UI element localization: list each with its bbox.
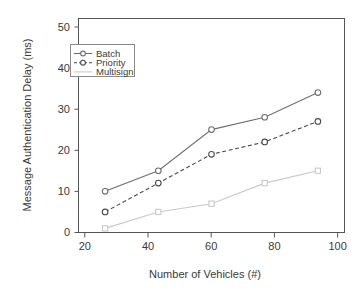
- data-point-multisign-80: [262, 181, 267, 186]
- data-point-batch-20: [102, 189, 108, 195]
- y-tick-label-40: 40: [58, 62, 70, 74]
- data-point-priority-40: [156, 180, 162, 186]
- series-multisign: [103, 168, 321, 231]
- x-axis-ticks: [85, 233, 338, 238]
- x-tick-label-60: 60: [205, 240, 217, 252]
- y-axis-title: Message Authentication Delay (ms): [21, 38, 33, 211]
- x-axis-tick-labels: 20 40 60 80 100: [79, 240, 347, 252]
- data-point-priority-60: [209, 152, 215, 158]
- data-point-multisign-40: [156, 209, 161, 214]
- data-point-priority-80: [262, 139, 268, 145]
- y-tick-label-0: 0: [64, 226, 70, 238]
- chart-legend: BatchPriorityMultisign: [71, 45, 135, 78]
- data-point-batch-100: [315, 90, 321, 96]
- data-series-layer: [102, 90, 320, 231]
- y-tick-label-20: 20: [58, 144, 70, 156]
- data-point-multisign-60: [209, 201, 214, 206]
- y-tick-label-10: 10: [58, 185, 70, 197]
- y-tick-label-50: 50: [58, 21, 70, 33]
- data-point-multisign-100: [315, 168, 320, 173]
- series-line-batch: [105, 93, 318, 192]
- series-line-priority: [105, 121, 318, 212]
- data-point-multisign-20: [103, 226, 108, 231]
- data-point-batch-60: [209, 127, 215, 133]
- series-priority: [102, 119, 320, 215]
- x-tick-label-40: 40: [142, 240, 154, 252]
- legend-label-multisign: Multisign: [96, 66, 134, 77]
- data-point-priority-100: [315, 119, 321, 125]
- x-tick-label-100: 100: [328, 240, 346, 252]
- legend-marker-batch: [81, 51, 86, 56]
- x-tick-label-80: 80: [268, 240, 280, 252]
- data-point-batch-80: [262, 114, 268, 120]
- y-axis-tick-labels: 0 10 20 30 40 50: [58, 21, 70, 238]
- y-tick-label-30: 30: [58, 103, 70, 115]
- chart-container: 0 10 20 30 40 50 20 40 60 80 100 Number …: [0, 0, 364, 294]
- series-batch: [102, 90, 320, 194]
- x-axis-title: Number of Vehicles (#): [149, 268, 261, 280]
- data-point-batch-40: [156, 168, 162, 174]
- line-chart: 0 10 20 30 40 50 20 40 60 80 100 Number …: [0, 0, 364, 294]
- x-tick-label-20: 20: [79, 240, 91, 252]
- data-point-priority-20: [102, 209, 108, 215]
- legend-marker-priority: [81, 60, 86, 65]
